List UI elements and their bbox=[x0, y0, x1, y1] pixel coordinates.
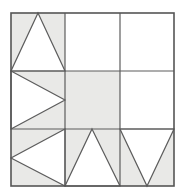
shaded-region-r2c2 bbox=[65, 71, 120, 129]
shaded-triangle-grid-figure bbox=[0, 0, 185, 194]
figure-container bbox=[0, 0, 185, 194]
